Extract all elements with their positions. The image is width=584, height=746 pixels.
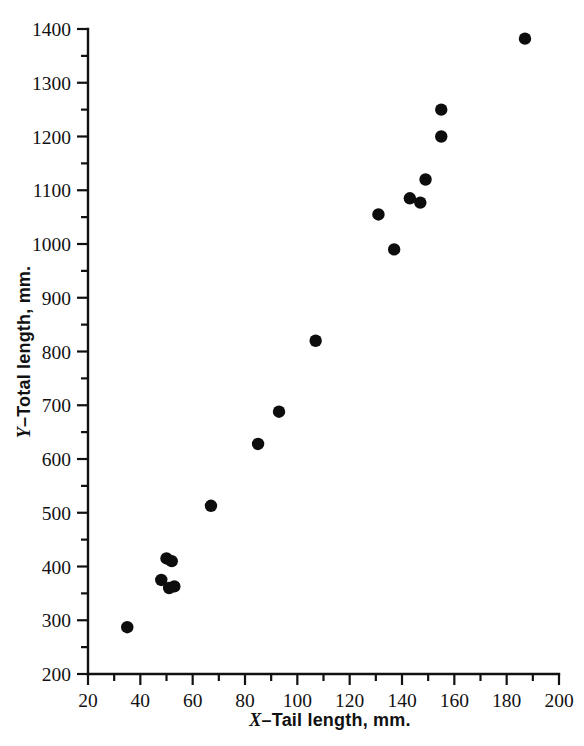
x-tick-label: 120: [335, 690, 364, 711]
x-axis-tick-labels: 20406080100120140160180200: [78, 690, 573, 711]
x-tick-label: 60: [183, 690, 203, 711]
data-point: [205, 500, 217, 512]
x-tick-label: 80: [235, 690, 255, 711]
y-tick-label: 900: [42, 288, 71, 309]
y-axis-tick-labels: 2003004005006007008009001000110012001300…: [32, 19, 71, 685]
data-points: [121, 32, 531, 633]
data-point: [166, 555, 178, 567]
data-point: [388, 243, 400, 255]
x-tick-label: 100: [283, 690, 312, 711]
y-tick-label: 400: [42, 557, 71, 578]
data-point: [519, 32, 531, 44]
y-tick-label: 1200: [32, 127, 71, 148]
scatter-chart: 2003004005006007008009001000110012001300…: [0, 0, 584, 746]
data-point: [419, 173, 431, 185]
data-point: [168, 580, 180, 592]
y-tick-label: 700: [42, 395, 71, 416]
y-tick-label: 200: [42, 664, 71, 685]
y-tick-label: 1400: [32, 19, 71, 40]
x-tick-label: 160: [440, 690, 469, 711]
x-tick-label: 20: [78, 690, 98, 711]
data-point: [121, 621, 133, 633]
y-tick-label: 300: [42, 610, 71, 631]
y-axis-ticks: [77, 29, 88, 674]
y-tick-label: 600: [42, 449, 71, 470]
y-tick-label: 800: [42, 342, 71, 363]
plot-area: 2003004005006007008009001000110012001300…: [0, 0, 584, 746]
data-point: [309, 335, 321, 347]
x-axis-title: X–Tail length, mm.: [248, 710, 410, 730]
data-point: [372, 208, 384, 220]
x-tick-label: 200: [544, 690, 573, 711]
data-point: [252, 438, 264, 450]
y-tick-label: 1300: [32, 73, 71, 94]
x-tick-label: 180: [492, 690, 521, 711]
data-point: [414, 196, 426, 208]
x-tick-label: 140: [387, 690, 416, 711]
x-axis-ticks: [88, 674, 559, 685]
data-point: [435, 103, 447, 115]
x-tick-label: 40: [131, 690, 151, 711]
y-tick-label: 1000: [32, 234, 71, 255]
data-point: [273, 406, 285, 418]
data-point: [435, 130, 447, 142]
y-axis-title: Y–Total length, mm.: [14, 266, 34, 438]
y-tick-label: 1100: [33, 180, 71, 201]
y-tick-label: 500: [42, 503, 71, 524]
